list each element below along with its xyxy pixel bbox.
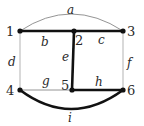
edge-label-f: f — [126, 56, 134, 70]
node-1 — [17, 28, 22, 33]
node-label-6: 6 — [127, 83, 135, 98]
edge-label-i: i — [68, 111, 72, 125]
node-4 — [17, 87, 22, 92]
node-3 — [120, 28, 125, 33]
graph-diagram: 1 2 3 4 5 6 a b c d e f g h i — [0, 0, 144, 126]
node-label-1: 1 — [6, 24, 14, 39]
edge-i — [20, 90, 123, 109]
edge-label-a: a — [67, 3, 74, 17]
edge-label-h: h — [95, 75, 103, 89]
edge-label-g: g — [42, 74, 50, 88]
edge-label-d: d — [8, 55, 16, 69]
edge-label-b: b — [41, 35, 49, 49]
edge-label-c: c — [98, 33, 105, 47]
node-5 — [69, 87, 74, 92]
node-label-2: 2 — [75, 33, 83, 48]
edge-e — [72, 31, 74, 90]
node-label-5: 5 — [61, 78, 69, 93]
node-label-3: 3 — [127, 24, 135, 39]
node-label-4: 4 — [6, 83, 14, 98]
edge-label-e: e — [62, 50, 69, 64]
node-6 — [120, 87, 125, 92]
